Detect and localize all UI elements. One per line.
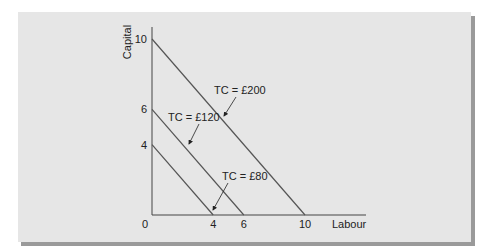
- ticks: 46104610: [135, 33, 311, 230]
- x-axis-label: Labour: [332, 218, 367, 230]
- x-tick-label: 4: [210, 218, 216, 230]
- y-tick-label: 4: [141, 139, 147, 151]
- isocost-label-2: TC = £120: [168, 111, 220, 123]
- isocost-label-1: TC = £80: [222, 170, 268, 182]
- y-tick-label: 6: [141, 103, 147, 115]
- isocost-lines: [152, 39, 305, 215]
- annotations: TC = £80TC = £120TC = £200: [168, 84, 268, 210]
- isocost-line-2: [152, 109, 244, 215]
- isocost-arrow-2: [189, 124, 199, 144]
- isocost-arrow-1: [213, 183, 228, 210]
- origin-label: 0: [142, 218, 148, 230]
- isocost-chart: Capital Labour 0 46104610 TC = £80TC = £…: [0, 0, 489, 251]
- y-axis-label: Capital: [121, 25, 133, 59]
- x-tick-label: 6: [241, 218, 247, 230]
- axes: Capital Labour 0: [121, 25, 367, 230]
- isocost-label-3: TC = £200: [214, 84, 266, 96]
- x-tick-label: 10: [299, 218, 311, 230]
- isocost-line-1: [152, 145, 213, 215]
- isocost-arrow-3: [224, 97, 236, 116]
- isocost-line-3: [152, 39, 305, 215]
- y-tick-label: 10: [135, 33, 147, 45]
